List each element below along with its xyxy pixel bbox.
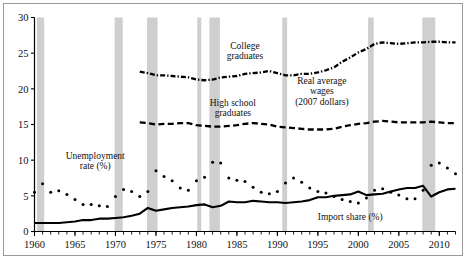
x-tick-label: 1990	[267, 239, 288, 250]
x-tick-label: 2005	[388, 239, 409, 250]
x-tick-label: 1965	[64, 239, 85, 250]
recession-band	[368, 18, 374, 232]
college-graduates-label-line: College	[230, 41, 260, 51]
college-graduates-label-line: graduates	[227, 51, 264, 61]
import-share-label: Import share (%)	[318, 212, 383, 223]
real-average-wages-label-line: Real average	[297, 76, 346, 86]
x-tick-label: 1995	[307, 239, 328, 250]
y-tick-label: 15	[18, 119, 29, 130]
real-average-wages-label-line: (2007 dollars)	[295, 97, 349, 108]
high-school-graduates-label-line: graduates	[215, 108, 252, 118]
chart-canvas: 0510152025301960196519701975198019851990…	[0, 0, 466, 259]
chart-svg: 0510152025301960196519701975198019851990…	[0, 0, 466, 259]
y-tick-label: 10	[18, 155, 29, 166]
real-average-wages-label-line: wages	[310, 86, 334, 96]
x-tick-label: 1985	[226, 239, 247, 250]
high-school-graduates-label-line: High school	[210, 98, 257, 108]
recession-band	[422, 18, 435, 232]
unemployment-rate-label-line: rate (%)	[80, 161, 111, 172]
y-tick-label: 20	[18, 84, 29, 95]
recession-band	[209, 18, 220, 232]
x-tick-label: 1980	[186, 239, 207, 250]
recession-band	[37, 18, 44, 232]
y-tick-label: 0	[23, 226, 28, 237]
x-tick-label: 2000	[348, 239, 369, 250]
y-tick-label: 30	[18, 12, 29, 23]
x-tick-label: 1960	[24, 239, 45, 250]
college-graduates-label: Collegegraduates	[227, 41, 264, 62]
y-tick-label: 5	[23, 191, 28, 202]
unemployment-rate-label-line: Unemployment	[66, 151, 125, 161]
x-tick-label: 1975	[145, 239, 166, 250]
recession-band	[282, 18, 287, 232]
import-share-label-line: Import share (%)	[318, 212, 383, 223]
x-tick-label: 2010	[429, 239, 450, 250]
chart-figure: 0510152025301960196519701975198019851990…	[0, 0, 466, 259]
high-school-graduates-label: High schoolgraduates	[210, 98, 257, 119]
recession-band	[115, 18, 123, 232]
y-tick-label: 25	[18, 48, 29, 59]
x-tick-label: 1970	[105, 239, 126, 250]
